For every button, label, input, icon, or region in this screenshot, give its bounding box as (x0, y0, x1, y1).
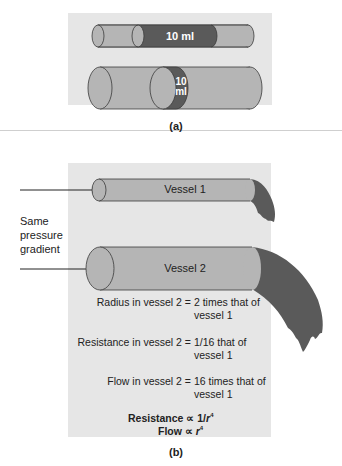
statement-radius: Radius in vessel 2 = 2 times that of (60, 296, 260, 309)
statement-radius-rhs: 2 times that of (194, 296, 260, 309)
flow-law-prefix: Flow ∝ (158, 425, 196, 437)
statement-resistance-lhs: Resistance in vessel 2 = (60, 336, 191, 349)
side-label-line-1: Same (20, 214, 63, 228)
small-tube-volume-label: 10 ml (160, 31, 200, 41)
flow-law: Flow ∝ r4 (158, 422, 203, 437)
side-label-line-2: pressure (20, 228, 63, 242)
statement-resistance-cont: vessel 1 (194, 349, 233, 362)
panel-a-caption: (a) (156, 120, 196, 132)
statement-radius-cont: vessel 1 (194, 309, 233, 322)
statement-resistance-rhs: 1/16 that of (194, 336, 247, 349)
statement-resistance: Resistance in vessel 2 = 1/16 that of (60, 336, 246, 349)
pressure-arrow-2 (20, 266, 97, 272)
pressure-arrow-1 (20, 187, 99, 193)
statement-flow-lhs: Flow in vessel 2 = (60, 375, 191, 388)
side-label-line-3: gradient (20, 242, 63, 256)
panel-b-caption: (b) (156, 446, 196, 458)
large-tube-volume-label-2: ml (174, 87, 188, 97)
statement-flow: Flow in vessel 2 = 16 times that of (60, 375, 266, 388)
statement-radius-lhs: Radius in vessel 2 = (60, 296, 191, 309)
pressure-gradient-label: Same pressure gradient (20, 214, 63, 256)
flow-law-exp: 4 (200, 425, 203, 431)
statement-flow-cont: vessel 1 (194, 388, 233, 401)
vessel-2-outflow (252, 247, 323, 352)
resistance-law-exp: 4 (210, 412, 213, 418)
vessel-1-label: Vessel 1 (150, 183, 220, 195)
vessel-2-label: Vessel 2 (150, 262, 220, 274)
statement-flow-rhs: 16 times that of (194, 375, 266, 388)
